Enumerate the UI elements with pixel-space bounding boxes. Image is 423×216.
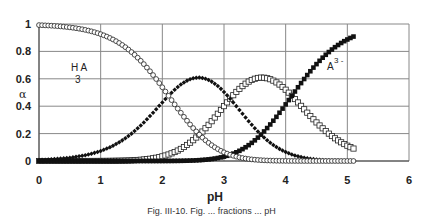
speciation-chart: 012345600.20.40.60.81 α pH H A 3 A 3 - bbox=[0, 0, 423, 216]
h3a-annotation: H A 3 bbox=[71, 62, 87, 85]
x-tick-label: 2 bbox=[159, 174, 165, 186]
y-tick-label: 0 bbox=[25, 155, 31, 167]
h3a-label: H A bbox=[71, 62, 87, 73]
x-tick-label: 3 bbox=[221, 174, 227, 186]
x-tick-label: 0 bbox=[36, 174, 42, 186]
x-tick-label: 6 bbox=[406, 174, 412, 186]
a3-label: A bbox=[327, 61, 334, 72]
x-tick-label: 5 bbox=[344, 174, 350, 186]
series-a3 bbox=[37, 34, 356, 163]
y-tick-label: 1 bbox=[25, 18, 31, 30]
y-tick-label: 0.8 bbox=[16, 45, 31, 57]
a3-annotation: A 3 - bbox=[327, 56, 344, 72]
y-tick-label: 0.6 bbox=[16, 73, 31, 85]
y-tick-label: 0.2 bbox=[16, 128, 31, 140]
data-series bbox=[36, 23, 356, 164]
x-axis-label: pH bbox=[207, 190, 223, 204]
y-axis-label: α bbox=[19, 88, 27, 101]
series-h2a bbox=[37, 75, 356, 163]
series-ha2 bbox=[36, 75, 356, 164]
x-tick-label: 4 bbox=[283, 174, 290, 186]
h3a-subscript: 3 bbox=[75, 74, 81, 85]
y-tick-label: 0.4 bbox=[16, 100, 32, 112]
a3-superscript: 3 - bbox=[334, 56, 344, 65]
figure-caption: Fig. III-10. Fig. ... fractions ... pH bbox=[0, 206, 423, 216]
x-tick-label: 1 bbox=[98, 174, 104, 186]
series-h3a bbox=[37, 23, 356, 164]
